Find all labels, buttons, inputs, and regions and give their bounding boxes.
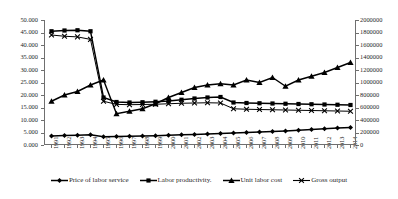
right-axis-tick-label: 200000 xyxy=(360,129,379,135)
square-marker xyxy=(257,101,261,105)
left-axis-tick-label: 45.000 xyxy=(0,29,38,35)
triangle-legend-icon xyxy=(223,176,240,185)
diamond-marker xyxy=(283,129,288,134)
diamond-marker xyxy=(322,126,327,131)
square-marker xyxy=(218,95,222,99)
x-axis-tick-mark xyxy=(220,145,221,148)
square-marker xyxy=(309,102,313,106)
right-axis-tick-label: 2000000 xyxy=(360,17,382,23)
legend-label: Labor productivity. xyxy=(158,176,212,185)
right-axis-tick-label: 1000000 xyxy=(360,79,382,85)
legend-item[interactable]: Unit labor cost xyxy=(223,176,283,185)
right-axis-tick-label: 1200000 xyxy=(360,67,382,73)
x-axis-tick-mark xyxy=(259,145,260,148)
diamond-marker xyxy=(101,134,106,139)
cross-legend-icon xyxy=(293,176,310,185)
square-marker xyxy=(75,28,79,32)
diamond-marker xyxy=(62,133,67,138)
x-axis-tick-mark xyxy=(272,145,273,148)
diamond-marker xyxy=(49,134,54,139)
x-axis-tick-mark xyxy=(298,145,299,148)
square-marker xyxy=(322,102,326,106)
diamond-marker xyxy=(244,130,249,135)
diamond-marker xyxy=(88,132,93,137)
series-line xyxy=(52,35,351,111)
x-axis-tick-mark xyxy=(311,145,312,148)
legend-item[interactable]: Labor productivity. xyxy=(140,176,212,185)
x-axis-tick-mark xyxy=(246,145,247,148)
x-axis-tick-mark xyxy=(194,145,195,148)
series-layer xyxy=(45,20,357,145)
diamond-legend-icon xyxy=(51,176,68,185)
diamond-marker xyxy=(335,126,340,131)
diamond-marker xyxy=(57,178,62,183)
square-marker xyxy=(205,95,209,99)
square-marker xyxy=(146,178,150,182)
series-line xyxy=(52,128,351,137)
diamond-marker xyxy=(348,125,353,130)
diamond-marker xyxy=(114,134,119,139)
triangle-marker xyxy=(100,77,106,83)
x-axis-tick-mark xyxy=(207,145,208,148)
x-axis-tick-mark xyxy=(155,145,156,148)
diamond-marker xyxy=(192,132,197,137)
right-axis-tick-label: 1800000 xyxy=(360,29,382,35)
legend-label: Gross output xyxy=(311,176,347,185)
x-axis-tick-mark xyxy=(324,145,325,148)
left-axis-tick-label: 15.000 xyxy=(0,104,38,110)
x-axis-tick-mark xyxy=(142,145,143,148)
square-marker xyxy=(244,101,248,105)
triangle-marker xyxy=(243,77,249,83)
diamond-marker xyxy=(179,132,184,137)
diamond-marker xyxy=(153,133,158,138)
x-axis-tick-mark xyxy=(181,145,182,148)
series-unit-labor-cost xyxy=(48,59,353,116)
square-marker xyxy=(335,103,339,107)
right-axis-tick-label: 1600000 xyxy=(360,42,382,48)
diamond-marker xyxy=(270,129,275,134)
square-marker xyxy=(49,29,53,33)
chart-legend: Price of labor serviceLabor productivity… xyxy=(0,176,398,185)
right-axis-tick-label: 800000 xyxy=(360,92,379,98)
left-axis-tick-label: 50.000 xyxy=(0,17,38,23)
x-axis-tick-mark xyxy=(285,145,286,148)
x-axis-tick-mark xyxy=(337,145,338,148)
square-marker xyxy=(283,102,287,106)
right-axis-tick-label: 400000 xyxy=(360,117,379,123)
diamond-marker xyxy=(166,133,171,138)
diamond-marker xyxy=(257,130,262,135)
square-marker xyxy=(88,29,92,33)
square-marker xyxy=(231,100,235,104)
legend-label: Price of labor service xyxy=(69,176,129,185)
left-axis-tick-label: 0.000 xyxy=(0,142,38,148)
x-axis-tick-mark xyxy=(168,145,169,148)
series-labor-productivity xyxy=(49,28,352,107)
diamond-marker xyxy=(231,131,236,136)
left-axis-tick-label: 10.000 xyxy=(0,117,38,123)
x-axis-tick-mark xyxy=(103,145,104,148)
left-axis-tick-label: 25.000 xyxy=(0,79,38,85)
square-marker xyxy=(192,96,196,100)
triangle-marker xyxy=(347,59,353,65)
x-axis-tick-mark xyxy=(90,145,91,148)
legend-item[interactable]: Price of labor service xyxy=(51,176,129,185)
chart-container: 0.0005.00010.00015.00020.00025.00030.000… xyxy=(0,0,398,199)
left-axis-tick-label: 5.000 xyxy=(0,129,38,135)
diamond-marker xyxy=(205,132,210,137)
diamond-marker xyxy=(75,133,80,138)
legend-item[interactable]: Gross output xyxy=(293,176,347,185)
series-gross-output xyxy=(49,33,353,114)
diamond-marker xyxy=(218,131,223,136)
square-marker xyxy=(348,103,352,107)
left-axis-tick-mark xyxy=(41,145,44,146)
right-axis-tick-label: 600000 xyxy=(360,104,379,110)
x-axis-tick-mark xyxy=(129,145,130,148)
x-axis-tick-mark xyxy=(64,145,65,148)
right-axis-tick-label: 1400000 xyxy=(360,54,382,60)
left-axis-tick-label: 30.000 xyxy=(0,67,38,73)
x-axis-tick-mark xyxy=(350,145,351,148)
legend-label: Unit labor cost xyxy=(241,176,283,185)
right-axis-tick-label: 0 xyxy=(360,142,363,148)
diamond-marker xyxy=(127,134,132,139)
plot-area xyxy=(44,20,356,145)
